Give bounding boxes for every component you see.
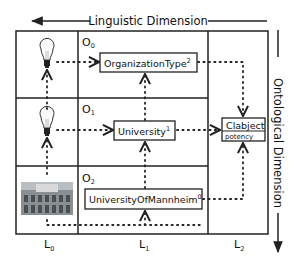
node-name: University [118,126,166,137]
node-name: OrganizationType [104,58,187,69]
edge-organization-type-to-clabject [198,62,243,116]
ontological-dimension-label: Ontological Dimension [271,78,285,208]
column-label-l1: L1 [139,238,149,253]
row-label-o0: O0 [82,36,95,50]
column-label-l0: L0 [44,238,54,253]
linguistic-dimension-axis: Linguistic Dimension [32,14,267,28]
clabject-attribute: potency [225,133,253,141]
node-university-of-mannheim: UniversityOfMannheim0 [85,189,202,209]
row-label-o1: O1 [82,103,95,117]
two-dimensional-metamodel-diagram: Linguistic Dimension Ontological Dimensi… [0,0,297,264]
column-label-l2: L2 [234,238,244,253]
svg-text:University1: University1 [118,125,170,137]
ontological-dimension-axis: Ontological Dimension [271,30,285,252]
lightbulb-icon [40,38,54,68]
building-photo [21,182,73,215]
potency-superscript: 2 [187,57,191,65]
node-clabject: Clabject potency [222,118,265,141]
edge-uom-to-clabject [203,143,243,199]
potency-superscript: 1 [166,125,170,133]
edge-photo-bottom [47,220,200,225]
row-label-o2: O2 [82,172,95,186]
svg-text:OrganizationType2: OrganizationType2 [104,57,191,69]
potency-superscript: 0 [198,193,202,201]
svg-text:UniversityOfMannheim0: UniversityOfMannheim0 [89,193,202,205]
node-name: UniversityOfMannheim [89,194,198,205]
node-organization-type: OrganizationType2 [100,53,197,72]
linguistic-dimension-label: Linguistic Dimension [88,14,207,28]
clabject-name: Clabject [226,120,265,131]
node-university: University1 [114,121,175,140]
lightbulb-icon [40,106,54,136]
